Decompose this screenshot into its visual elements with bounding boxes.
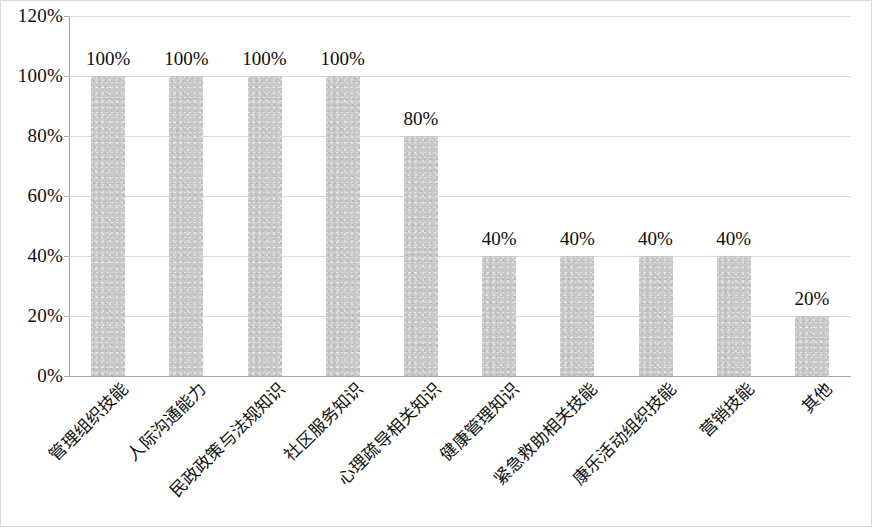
bar: [91, 76, 125, 376]
x-axis-tick-label-text: 其他: [798, 379, 835, 416]
y-axis-tick-label: 0%: [5, 366, 63, 385]
y-axis-tick-label: 80%: [5, 126, 63, 145]
bar-value-label: 100%: [151, 49, 221, 68]
bar-value-label: 40%: [542, 229, 612, 248]
bar-value-label: 100%: [308, 49, 378, 68]
gridline: [69, 16, 851, 17]
y-axis-tick: [64, 316, 69, 317]
x-axis-tick-label-text: 管理组织技能: [46, 379, 132, 465]
y-axis-tick: [64, 196, 69, 197]
y-axis-tick-label: 60%: [5, 186, 63, 205]
y-axis-tick: [64, 76, 69, 77]
bar-value-label: 80%: [386, 109, 456, 128]
y-axis-tick-label: 40%: [5, 246, 63, 265]
y-axis-tick: [64, 136, 69, 137]
x-axis-tick-label-text: 人际沟通能力: [124, 379, 210, 465]
bar-value-label: 40%: [464, 229, 534, 248]
y-axis-tick: [64, 16, 69, 17]
x-axis: 管理组织技能人际沟通能力民政政策与法规知识社区服务知识心理疏导相关知识健康管理知…: [69, 379, 851, 524]
x-axis-tick-label-text: 营销技能: [696, 379, 758, 441]
bar-value-label: 20%: [777, 289, 847, 308]
y-axis-tick-label: 120%: [5, 6, 63, 25]
bar-value-label: 100%: [230, 49, 300, 68]
y-axis: 0%20%40%60%80%100%120%: [1, 16, 63, 376]
bar-chart: 0%20%40%60%80%100%120% 100%100%100%100%8…: [0, 0, 872, 527]
y-axis-tick: [64, 376, 69, 377]
y-axis-tick: [64, 256, 69, 257]
bar-value-label: 40%: [699, 229, 769, 248]
bar-value-label: 100%: [73, 49, 143, 68]
x-axis-tick-label-text: 社区服务知识: [281, 379, 367, 465]
bar-value-label: 40%: [621, 229, 691, 248]
x-axis-tick-label-text: 健康管理知识: [437, 379, 523, 465]
y-axis-tick-label: 100%: [5, 66, 63, 85]
y-axis-tick-label: 20%: [5, 306, 63, 325]
